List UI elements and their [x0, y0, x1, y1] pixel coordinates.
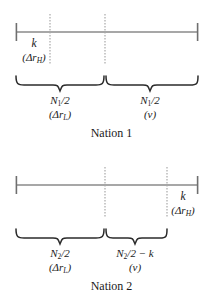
nation-2-k-paren-label: (ΔrH) — [157, 204, 209, 219]
nation-1-left-brace-second: (ΔrL) — [30, 108, 90, 123]
nation-2-left-brace-paren-close: ) — [67, 261, 71, 273]
nation-1-k-paren-open: (Δr — [22, 51, 36, 63]
nation-1-right-brace-n: N — [140, 94, 147, 106]
nation-1-right-brace-second: (v) — [120, 108, 180, 121]
nation-2-left-brace-n: N — [50, 247, 57, 259]
nation-1-dotted-marks — [50, 14, 105, 64]
nation-1-caption: Nation 1 — [0, 126, 223, 141]
nation-2-brace-right — [106, 229, 167, 244]
nation-2-left-brace-second: (ΔrL) — [30, 261, 90, 276]
nation-1-right-brace-rest: /2 — [151, 94, 160, 106]
nation-1-right-brace-main: N1/2 — [120, 94, 180, 109]
nation-1-brace-right — [106, 76, 198, 91]
nation-1-k-paren-close: ) — [42, 51, 46, 63]
nation-2-brace-left — [16, 229, 104, 244]
nation-2-left-brace-rest: /2 — [61, 247, 70, 259]
nation-1-left-brace-paren-open: (Δr — [49, 108, 63, 120]
nation-1-k-label: k — [14, 37, 54, 50]
nation-2-caption: Nation 2 — [0, 279, 223, 294]
nation-1-left-brace-n: N — [50, 94, 57, 106]
nation-1-left-brace-paren-close: ) — [67, 108, 71, 120]
nation-1-brace-left — [16, 76, 104, 91]
figure-two-nation-diagram: k (ΔrH) N1/2 (ΔrL) N1/2 (v) Nation 1 — [0, 0, 223, 302]
nation-2-left-brace-paren-open: (Δr — [49, 261, 63, 273]
nation-1-left-brace-rest: /2 — [61, 94, 70, 106]
nation-2-k-paren-open: (Δr — [171, 204, 185, 216]
nation-2-k-label: k — [168, 190, 198, 203]
nation-2-k-paren-close: ) — [191, 204, 195, 216]
nation-2-right-brace-rest: /2 − k — [127, 247, 153, 259]
nation-2-right-brace-n: N — [116, 247, 123, 259]
nation-2-right-brace-main: N2/2 − k — [105, 247, 165, 262]
nation-2-right-brace-second: (v) — [105, 261, 165, 274]
panel-nation-2: k (ΔrH) N2/2 (ΔrL) N2/2 − k (v) Nation 2 — [0, 151, 223, 302]
panel-nation-1: k (ΔrH) N1/2 (ΔrL) N1/2 (v) Nation 1 — [0, 0, 223, 151]
nation-1-k-paren-label: (ΔrH) — [10, 51, 58, 66]
nation-2-left-brace-main: N2/2 — [30, 247, 90, 262]
nation-1-left-brace-main: N1/2 — [30, 94, 90, 109]
